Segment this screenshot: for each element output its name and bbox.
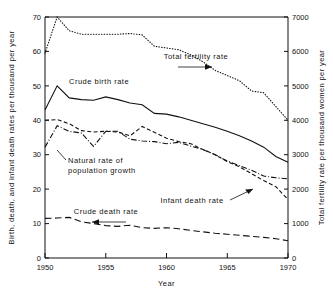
series-line-crude-death-rate [45,217,288,240]
series-line-total-fertility-rate [45,17,288,120]
x-tick-label: 1955 [97,263,114,272]
y-tick-label: 0 [37,254,41,263]
x-tick-label: 1950 [37,263,54,272]
y-tick-label: 40 [33,116,41,125]
y-axis-right-labels: 0 1000 2000 3000 4000 5000 6000 7000 [292,13,309,263]
arrow-right-icon [205,64,212,69]
y2-tick-label: 7000 [292,13,309,22]
y-axis-right-ticks [284,17,288,258]
annotation-natural-rate-of-population-growth: Natural rate of population growth [57,150,136,175]
annotation-crude-birth-rate: Crude birth rate [69,77,129,86]
annotation-label: Infant death rate [160,196,223,205]
x-tick-label: 1965 [219,263,236,272]
y-axis-left-labels: 0 10 20 30 40 50 60 70 [33,13,41,263]
figure-container: 0 10 20 30 40 50 60 70 0 1000 2000 3000 … [0,0,333,295]
y2-tick-label: 6000 [292,47,309,56]
series-line-crude-birth-rate [45,86,288,162]
annotation-total-fertility-rate: Total fertility rate [164,52,229,70]
y2-tick-label: 4000 [292,116,309,125]
y-tick-label: 30 [33,150,41,159]
y-tick-label: 10 [33,219,41,228]
y2-tick-label: 1000 [292,219,309,228]
x-tick-label: 1970 [280,263,297,272]
y-tick-label: 60 [33,47,41,56]
annotation-label-line1: Natural rate of [68,156,123,165]
y-tick-label: 50 [33,82,41,91]
annotation-label-line2: population growth [68,166,136,175]
y2-tick-label: 5000 [292,82,309,91]
annotation-infant-death-rate: Infant death rate [160,189,253,205]
y-axis-left-ticks [45,17,49,258]
chart-svg: 0 10 20 30 40 50 60 70 0 1000 2000 3000 … [0,0,333,295]
y2-tick-label: 3000 [292,150,309,159]
y2-tick-label: 0 [292,254,296,263]
x-axis-labels: 1950 1955 1960 1965 1970 [37,263,297,272]
annotation-label: Total fertility rate [164,52,229,61]
y-tick-label: 20 [33,185,41,194]
annotation-label: Crude birth rate [69,77,129,86]
x-axis-title: Year [158,279,175,288]
x-tick-label: 1960 [158,263,175,272]
annotation-label: Crude death rate [74,207,138,216]
y-axis-title-right: Total fertility rate per thousand women … [317,50,326,226]
y-tick-label: 70 [33,13,41,22]
arrow-leader-icon [245,189,253,194]
y2-tick-label: 2000 [292,185,309,194]
x-axis-ticks [45,253,288,258]
annotation-crude-death-rate: Crude death rate [74,207,138,225]
y-axis-title-left: Birth, death, and infant death rates per… [7,31,16,245]
